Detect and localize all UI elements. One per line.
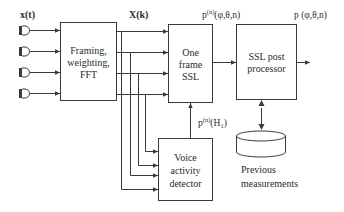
spectrum-label: X(k)	[129, 9, 148, 21]
microphone-icon	[19, 47, 30, 56]
svg-text:FFT: FFT	[80, 69, 97, 80]
framing-to-ssl-arrows	[116, 32, 168, 95]
post-storage-link	[259, 100, 265, 130]
microphone-icon	[19, 68, 29, 77]
one-frame-ssl-block: One frame SSL	[169, 25, 213, 103]
svg-text:Previous: Previous	[241, 164, 276, 175]
svg-text:Voice: Voice	[174, 152, 197, 163]
svg-text:frame: frame	[179, 59, 203, 70]
input-signal-label: x(t)	[20, 9, 35, 21]
vad-output-label: p(n)(H1)	[198, 116, 227, 129]
ssl-block-diagram: x(t) Framing, weighting, FFT X(k)	[0, 0, 344, 212]
previous-measurements-label: Previous measurements	[241, 164, 298, 189]
final-output-label: p (φ,θ,n)	[294, 10, 327, 21]
svg-text:SSL post: SSL post	[248, 51, 284, 62]
svg-text:One: One	[182, 47, 199, 58]
microphone-icon	[19, 26, 30, 35]
voice-activity-detector-block: Voice activity detector	[159, 139, 213, 201]
ssl-post-processor-block: SSL post processor	[237, 25, 297, 100]
framing-weighting-fft-block: Framing, weighting, FFT	[61, 23, 117, 101]
database-cylinder-icon	[237, 131, 286, 157]
mic-to-framing-arrows	[30, 31, 60, 94]
svg-text:measurements: measurements	[241, 178, 298, 189]
svg-text:SSL: SSL	[182, 71, 199, 82]
microphone-icon	[19, 89, 30, 98]
svg-text:activity: activity	[171, 165, 201, 176]
svg-text:detector: detector	[169, 178, 202, 189]
framing-to-vad-branches	[122, 32, 159, 190]
svg-text:processor: processor	[247, 63, 286, 74]
frame-output-label: p(n)(φ,θ,n)	[202, 8, 240, 21]
svg-text:Framing,: Framing,	[70, 45, 106, 56]
svg-text:weighting,: weighting,	[67, 57, 110, 68]
